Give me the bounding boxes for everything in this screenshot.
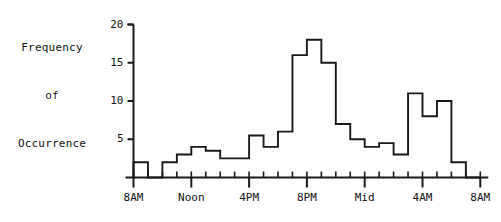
plot-area xyxy=(0,0,501,222)
histogram-outline xyxy=(134,40,481,178)
histogram-chart: Frequency of Occurrence 5101520 8AMNoon4… xyxy=(0,0,501,222)
